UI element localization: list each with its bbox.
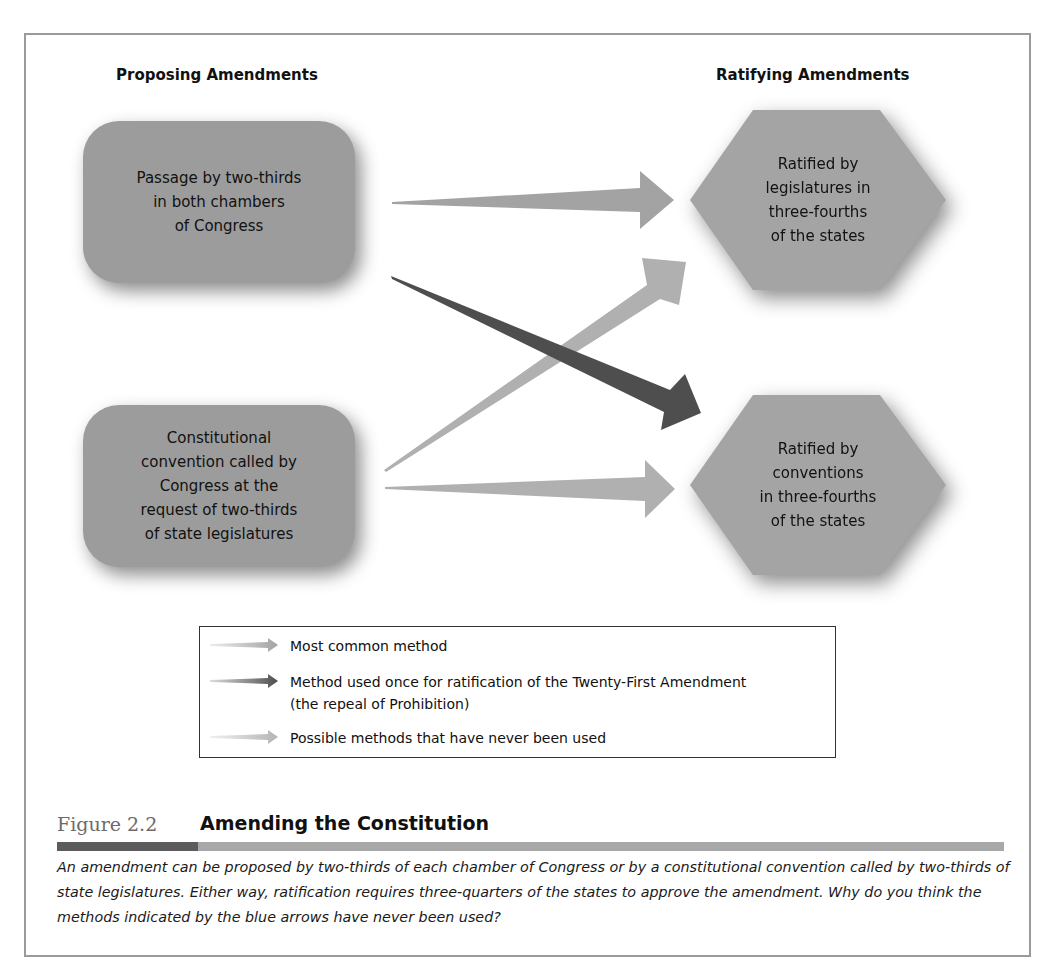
ratifying-hex-conventions: Ratified by conventions in three-fourths… bbox=[690, 395, 946, 575]
ratifying-hex-legislatures-label: Ratified by legislatures in three-fourth… bbox=[766, 152, 871, 248]
caption-bar-dark bbox=[57, 842, 198, 851]
caption-bar-light bbox=[198, 842, 1004, 851]
ratifying-hex-conventions-label: Ratified by conventions in three-fourths… bbox=[760, 437, 877, 533]
proposing-box-congress: Passage by two-thirds in both chambers o… bbox=[83, 121, 355, 283]
proposing-box-convention-label: Constitutional convention called by Cong… bbox=[141, 426, 298, 546]
legend-item-most-common: Most common method bbox=[210, 635, 447, 657]
ratifying-hex-legislatures: Ratified by legislatures in three-fourth… bbox=[690, 110, 946, 290]
arrow-never-used-convention-to-legislatures bbox=[384, 258, 686, 472]
figure-number: Figure 2.2 bbox=[57, 813, 157, 835]
legend-item-never-used: Possible methods that have never been us… bbox=[210, 727, 606, 749]
figure-caption: An amendment can be proposed by two-thir… bbox=[57, 855, 1017, 930]
legend: Most common method Method used once for … bbox=[199, 626, 836, 758]
figure-title: Amending the Constitution bbox=[200, 812, 489, 834]
proposing-box-convention: Constitutional convention called by Cong… bbox=[83, 405, 355, 567]
proposing-box-congress-label: Passage by two-thirds in both chambers o… bbox=[137, 166, 302, 238]
legend-arrow-light-icon bbox=[210, 638, 278, 652]
legend-arrow-blue-icon bbox=[210, 730, 278, 744]
legend-item-used-once: Method used once for ratification of the… bbox=[210, 671, 746, 715]
legend-arrow-dark-icon bbox=[210, 674, 278, 688]
arrow-most-common bbox=[392, 171, 674, 229]
arrow-never-used-convention-to-conventions bbox=[385, 460, 675, 518]
